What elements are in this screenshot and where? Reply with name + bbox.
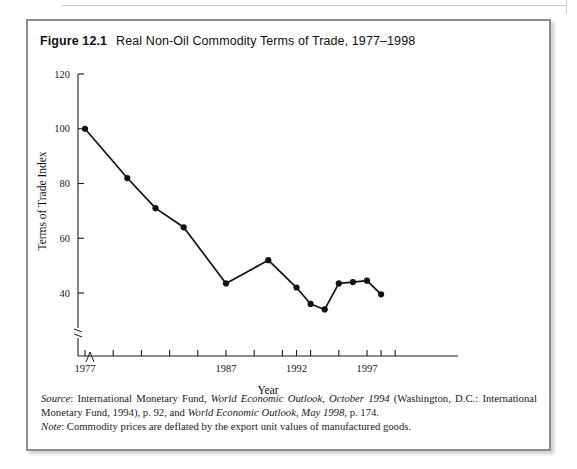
- x-tick-label: 1987: [216, 363, 237, 374]
- note-label: Note: [41, 420, 61, 432]
- data-point-marker: [82, 126, 88, 132]
- data-point-marker: [124, 175, 130, 181]
- y-tick-label: 80: [60, 178, 71, 189]
- source-italic-1: World Economic Outlook, October 1994: [211, 392, 390, 404]
- note-line: Note: Commodity prices are deflated by t…: [41, 419, 537, 433]
- source-line: Source: International Monetary Fund, Wor…: [41, 391, 537, 419]
- data-point-marker: [364, 278, 370, 284]
- data-point-marker: [350, 279, 356, 285]
- page-edge-rule: [566, 0, 567, 14]
- y-axis-title: Terms of Trade Index: [36, 151, 48, 250]
- y-tick-label: 120: [54, 69, 70, 80]
- source-italic-2: World Economic Outlook, May 1998: [188, 406, 345, 418]
- data-point-marker: [378, 291, 384, 297]
- page-top-rule: [62, 5, 567, 6]
- y-tick-label: 40: [60, 288, 71, 299]
- data-point-marker: [223, 280, 229, 286]
- x-tick-label: 1977: [75, 363, 96, 374]
- figure-notes: Source: International Monetary Fund, Wor…: [41, 391, 537, 434]
- x-tick-label: 1992: [286, 363, 307, 374]
- data-point-marker: [152, 205, 158, 211]
- data-point-marker: [265, 257, 271, 263]
- x-tick-label: 1997: [357, 363, 378, 374]
- source-label: Source: [41, 392, 70, 404]
- data-point-marker: [293, 284, 299, 290]
- data-point-marker: [308, 301, 314, 307]
- data-point-marker: [181, 224, 187, 230]
- y-tick-label: 60: [60, 233, 71, 244]
- y-tick-label: 100: [54, 123, 70, 134]
- note-text: : Commodity prices are deflated by the e…: [61, 420, 411, 432]
- data-point-marker: [322, 306, 328, 312]
- data-point-marker: [336, 280, 342, 286]
- terms-of-trade-line-chart: 1201008060401977198719921997YearTerms of…: [26, 19, 551, 399]
- source-text-1: : International Monetary Fund,: [70, 392, 211, 404]
- source-text-3: , p. 174.: [344, 406, 379, 418]
